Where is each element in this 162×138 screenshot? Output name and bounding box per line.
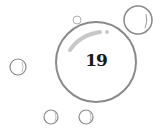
top-right-bubble: [124, 6, 152, 34]
left-bubble: [10, 59, 26, 75]
main-bubble-highlight: [70, 32, 100, 50]
bottom-left-highlight: [55, 112, 56, 122]
left-bubble-highlight: [22, 62, 23, 72]
top-right-highlight: [145, 14, 147, 28]
bottom-middle-highlight: [90, 112, 91, 122]
top-small-bubble: [73, 16, 81, 24]
main-bubble-glint: [105, 30, 109, 34]
bubble-number: 19: [76, 50, 116, 70]
